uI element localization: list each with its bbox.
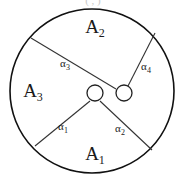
geometry-diagram: A2 A3 A1 α3 α4 α1 α2 [0, 0, 186, 175]
angle-label-alpha3-sub: 3 [66, 63, 70, 72]
figure-container: ( , ) A2 A3 A1 α3 α4 α1 α2 [0, 0, 186, 175]
region-label-a3-base: A [23, 80, 37, 101]
node-circle-right [116, 85, 132, 101]
angle-label-alpha4-sub: 4 [147, 66, 151, 75]
angle-label-alpha3: α3 [60, 57, 70, 72]
region-label-a1-sub: 1 [99, 153, 105, 167]
divider-line-alpha2 [100, 101, 152, 150]
angle-label-alpha1-sub: 1 [64, 126, 68, 135]
divider-line-alpha3 [31, 38, 116, 89]
region-label-a2: A2 [85, 16, 105, 40]
region-label-a3: A3 [23, 80, 43, 104]
angle-label-alpha1: α1 [58, 120, 68, 135]
region-label-a1: A1 [85, 143, 105, 167]
angle-label-alpha4: α4 [141, 60, 151, 75]
region-label-a3-sub: 3 [37, 90, 43, 104]
region-label-a2-base: A [85, 16, 99, 37]
region-label-a1-base: A [85, 143, 99, 164]
node-circle-left [87, 85, 103, 101]
region-label-a2-sub: 2 [99, 26, 105, 40]
angle-label-alpha2: α2 [115, 122, 125, 137]
angle-label-alpha2-sub: 2 [121, 128, 125, 137]
